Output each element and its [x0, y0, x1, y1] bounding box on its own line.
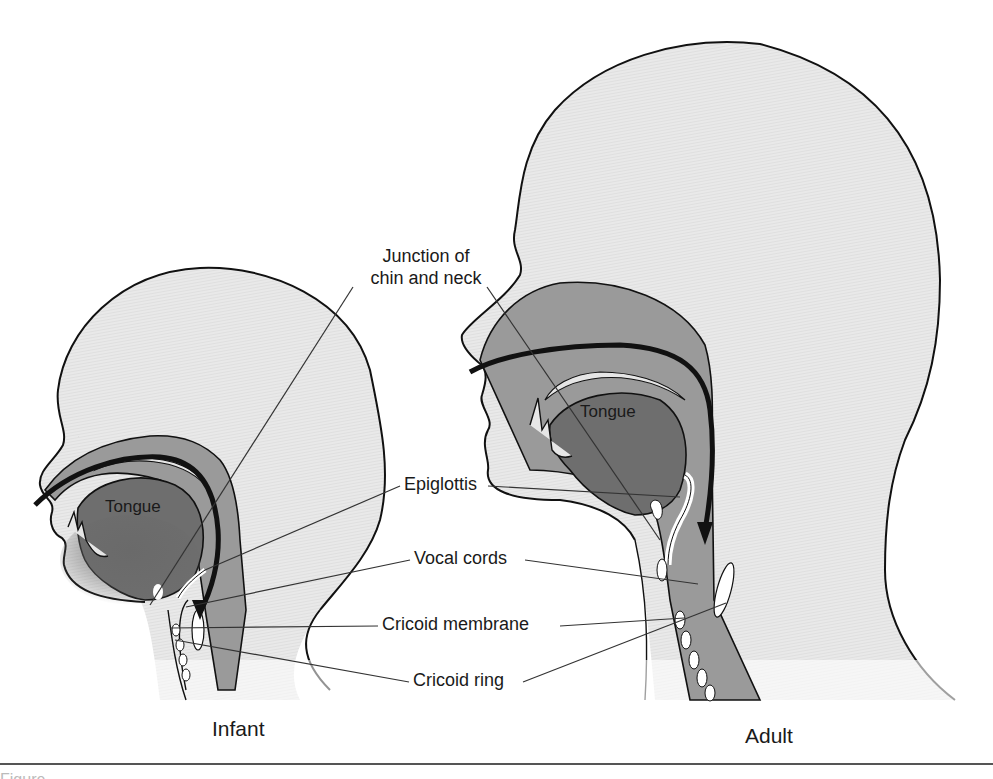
diagram-artwork — [0, 0, 993, 779]
caption-adult: Adult — [745, 724, 793, 748]
label-junction-chin-neck: Junction of chin and neck — [356, 245, 496, 289]
label-tongue-adult: Tongue — [580, 402, 636, 422]
adult-head — [462, 42, 993, 710]
label-vocal-cords: Vocal cords — [414, 548, 507, 568]
label-tongue-infant: Tongue — [105, 497, 161, 517]
label-junction-line1: Junction of — [356, 245, 496, 267]
label-junction-line2: chin and neck — [356, 267, 496, 289]
label-epiglottis: Epiglottis — [404, 474, 477, 494]
infant-head — [0, 268, 400, 710]
label-cricoid-membrane: Cricoid membrane — [382, 614, 529, 634]
label-cricoid-ring: Cricoid ring — [413, 670, 504, 690]
figure-divider — [0, 763, 993, 765]
caption-infant: Infant — [212, 717, 265, 741]
airway-diagram: Junction of chin and neck Epiglottis Voc… — [0, 0, 993, 779]
figure-caption-partial: Figure ... — [0, 771, 63, 779]
